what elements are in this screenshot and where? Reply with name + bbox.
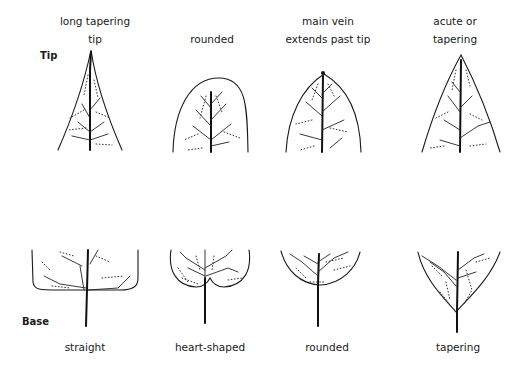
- leaf-heart-shaped-base: [170, 250, 249, 323]
- leaf-rounded-base: [281, 251, 360, 326]
- leaf-rounded-tip: [173, 78, 248, 152]
- leaf-straight-base: [32, 250, 138, 326]
- leaf-main-vein-extends-past-tip: [286, 71, 361, 152]
- vein-tip-point: [321, 71, 325, 75]
- leaf-acute-tapering-tip: [422, 55, 500, 152]
- leaf-diagram: [0, 0, 519, 377]
- leaf-tapering-base: [418, 252, 500, 332]
- leaf-long-tapering-tip: [58, 50, 122, 150]
